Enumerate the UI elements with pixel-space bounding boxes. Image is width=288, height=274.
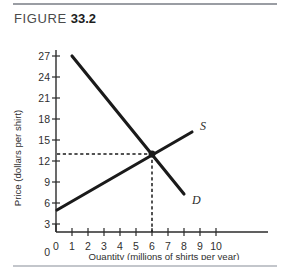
y-tick-label: 0 <box>44 246 50 258</box>
y-tick-label: 12 <box>38 155 50 167</box>
y-tick-label: 6 <box>44 197 50 209</box>
x-tick-label: 0 <box>53 240 59 252</box>
demand-curve <box>72 56 184 194</box>
supply-curve-label: S <box>200 119 206 133</box>
supply-demand-chart: Price (dollars per shirt) 27 24 21 18 15… <box>0 28 288 260</box>
y-tick-label: 9 <box>44 176 50 188</box>
y-tick-label: 21 <box>38 92 50 104</box>
demand-curve-label: D <box>191 193 201 207</box>
x-tick-label: 1 <box>69 240 75 252</box>
y-tick-label: 18 <box>38 113 50 125</box>
supply-curve <box>57 132 192 210</box>
figure-panel: FIGURE33.2 Price (dollars per shirt) 27 … <box>0 0 288 274</box>
bottom-divider <box>13 265 277 267</box>
equilibrium-point <box>149 151 156 158</box>
figure-title: FIGURE33.2 <box>14 11 96 26</box>
y-axis-title: Price (dollars per shirt) <box>12 110 23 207</box>
x-axis-title: Quantity (millions of shirts per year) <box>89 251 240 260</box>
figure-label: FIGURE <box>14 11 67 26</box>
y-tick-label: 3 <box>44 218 50 230</box>
y-tick-label: 24 <box>38 71 50 83</box>
y-tick-label: 27 <box>38 50 50 62</box>
y-tick-label: 15 <box>38 134 50 146</box>
top-divider <box>13 3 277 5</box>
figure-number: 33.2 <box>71 11 96 26</box>
